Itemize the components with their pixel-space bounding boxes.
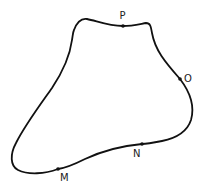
point-M: M	[56, 167, 68, 183]
point-N-dot	[140, 142, 144, 146]
point-M-label: M	[60, 172, 69, 183]
point-O: O	[178, 73, 192, 84]
point-O-label: O	[184, 73, 192, 84]
point-P-label: P	[120, 10, 126, 21]
closed-curve-diagram: P O N M	[0, 0, 205, 186]
point-M-dot	[56, 167, 60, 171]
point-O-dot	[178, 77, 182, 81]
point-P-dot	[121, 24, 125, 28]
point-N-label: N	[133, 148, 140, 159]
closed-curve	[12, 19, 193, 173]
